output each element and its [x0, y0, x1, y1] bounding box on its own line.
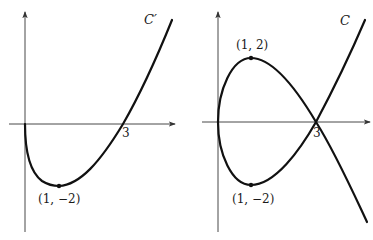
right-x-intercept-label: 3 [313, 126, 321, 140]
left-panel: C′ 3 (1, −2) [9, 12, 175, 232]
right-max-point [249, 56, 253, 60]
left-curve-label: C′ [144, 12, 157, 27]
figure: C′ 3 (1, −2) C 3 (1, 2) (1, −2) [0, 0, 373, 240]
left-min-point [57, 184, 61, 188]
right-min-point-label: (1, −2) [232, 192, 274, 206]
left-min-point-label: (1, −2) [38, 192, 80, 206]
right-max-point-label: (1, 2) [236, 38, 268, 52]
left-x-intercept-label: 3 [122, 126, 130, 140]
right-min-point [249, 183, 253, 187]
left-curve-c-prime [25, 20, 172, 186]
right-panel: C 3 (1, 2) (1, −2) [202, 12, 370, 232]
right-curve-label: C [340, 13, 350, 28]
